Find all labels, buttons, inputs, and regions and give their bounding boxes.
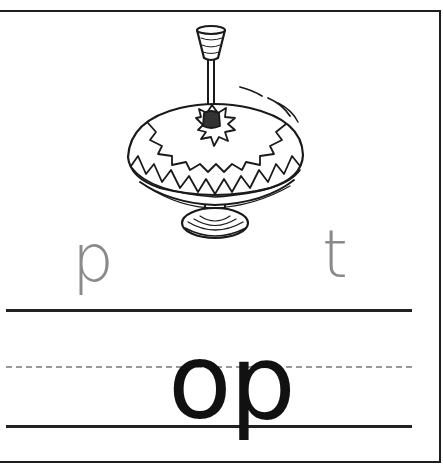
spinning-top-icon <box>0 0 443 250</box>
hint-letter-left: p <box>72 226 114 292</box>
word-fragment: op <box>168 330 294 434</box>
top-writing-line <box>6 309 412 312</box>
hint-letter-right: t <box>322 222 348 288</box>
